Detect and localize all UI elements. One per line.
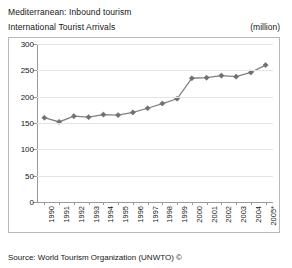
page-subtitle: International Tourist Arrivals	[8, 21, 115, 33]
x-axis-tick-label: 1990	[47, 206, 56, 223]
x-axis-tick-label: 1998	[165, 206, 174, 223]
x-axis-tick-label: 1993	[92, 206, 101, 223]
x-tick-mark	[74, 202, 75, 205]
series-line	[44, 65, 265, 122]
data-point-marker	[219, 73, 224, 78]
y-gridline	[37, 202, 273, 203]
y-axis-tick-label: 0	[30, 198, 37, 207]
x-axis-tick-label: 1994	[106, 206, 115, 223]
data-point-marker	[204, 75, 209, 80]
x-axis-tick-label: 2001	[210, 206, 219, 223]
subtitle-row: International Tourist Arrivals (million)	[8, 21, 284, 33]
data-point-marker	[160, 101, 165, 106]
y-axis-tick-label: 250	[21, 66, 37, 75]
x-tick-mark	[251, 202, 252, 205]
x-tick-mark	[103, 202, 104, 205]
y-gridline	[37, 70, 273, 71]
x-axis-tick-label: 2004	[254, 206, 263, 223]
y-axis-tick-label: 150	[21, 119, 37, 128]
x-tick-mark	[59, 202, 60, 205]
x-tick-mark	[148, 202, 149, 205]
data-point-marker	[101, 112, 106, 117]
x-tick-mark	[133, 202, 134, 205]
units-label: (million)	[250, 22, 284, 32]
data-point-marker	[116, 113, 121, 118]
data-point-marker	[145, 106, 150, 111]
x-axis-tick-label: 1991	[62, 206, 71, 223]
data-point-marker	[86, 115, 91, 120]
x-tick-mark	[236, 202, 237, 205]
data-point-marker	[130, 110, 135, 115]
x-axis-tick-label: 2003	[239, 206, 248, 223]
data-point-marker	[42, 115, 47, 120]
chart-page: Mediterranean: Inbound tourism Internati…	[0, 0, 292, 268]
y-gridline	[37, 123, 273, 124]
plot-inner: 0501001502002503001990199119921993199419…	[37, 44, 273, 202]
x-tick-mark	[89, 202, 90, 205]
y-axis-tick-label: 200	[21, 92, 37, 101]
x-tick-mark	[177, 202, 178, 205]
x-tick-mark	[44, 202, 45, 205]
x-tick-mark	[266, 202, 267, 205]
x-tick-mark	[162, 202, 163, 205]
y-gridline	[37, 176, 273, 177]
x-axis-tick-label: 1995	[121, 206, 130, 223]
y-gridline	[37, 97, 273, 98]
chart-frame: 0501001502002503001990199119921993199419…	[8, 37, 280, 233]
data-point-marker	[71, 114, 76, 119]
y-axis-tick-label: 100	[21, 145, 37, 154]
x-axis-tick-label: 2005*	[269, 206, 278, 226]
data-point-marker	[263, 62, 268, 67]
x-tick-mark	[192, 202, 193, 205]
source-note: Source: World Tourism Organization (UNWT…	[8, 253, 182, 262]
x-axis-tick-label: 2000	[195, 206, 204, 223]
x-axis-tick-label: 1992	[77, 206, 86, 223]
x-axis-tick-label: 2002	[224, 206, 233, 223]
x-axis-tick-label: 1999	[180, 206, 189, 223]
x-axis-tick-label: 1997	[151, 206, 160, 223]
y-gridline	[37, 44, 273, 45]
x-tick-mark	[221, 202, 222, 205]
y-gridline	[37, 149, 273, 150]
data-point-marker	[234, 74, 239, 79]
y-axis-tick-label: 300	[21, 40, 37, 49]
x-tick-mark	[118, 202, 119, 205]
page-title: Mediterranean: Inbound tourism	[8, 6, 284, 18]
x-tick-mark	[207, 202, 208, 205]
x-axis-tick-label: 1996	[136, 206, 145, 223]
y-axis-tick-label: 50	[25, 171, 37, 180]
plot-area: 0501001502002503001990199119921993199419…	[9, 38, 279, 232]
